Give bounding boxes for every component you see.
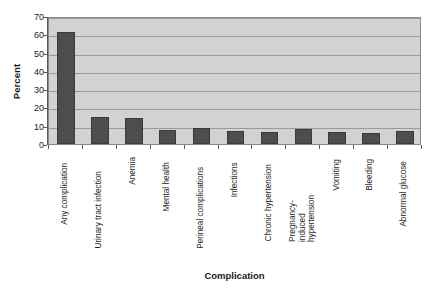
- y-axis-tick: [43, 127, 47, 128]
- bar-chart: Percent 706050403020100 Any complication…: [0, 0, 437, 300]
- x-axis-category-label: Infections: [218, 150, 252, 262]
- x-axis-tick: [387, 145, 388, 149]
- y-axis-tick-label: 40: [25, 67, 44, 76]
- x-axis-category-label-text: Bleeding: [365, 159, 375, 191]
- bar: [295, 129, 313, 144]
- x-axis-category-label-text: Pregnancy-induced hypertension: [288, 195, 317, 242]
- x-axis-category-label: Pregnancy-induced hypertension: [285, 150, 319, 262]
- x-axis-category-label-text: Urinary tract infection: [94, 171, 104, 248]
- y-axis-tick: [43, 108, 47, 109]
- x-axis-tick: [150, 145, 151, 149]
- bar: [57, 32, 75, 144]
- x-axis-category-label-text: Abnormal glucose: [399, 161, 409, 227]
- y-axis-tick: [43, 35, 47, 36]
- x-axis-category-label: Chronic hypertension: [251, 150, 285, 262]
- y-axis-tick-label: 10: [25, 122, 44, 131]
- x-axis-category-label-text: Any complication: [60, 163, 70, 225]
- x-axis-category-label: Bleeding: [353, 150, 387, 262]
- bar: [125, 118, 143, 144]
- x-axis-category-label: Urinary tract infection: [82, 150, 116, 262]
- x-axis-category-label-text: Infections: [230, 162, 240, 197]
- x-axis-tick: [421, 145, 422, 149]
- y-axis-tick-labels: 706050403020100: [25, 17, 44, 145]
- x-axis-tick: [285, 145, 286, 149]
- x-axis-tick: [353, 145, 354, 149]
- x-axis-tick: [251, 145, 252, 149]
- x-axis-tick: [48, 145, 49, 149]
- y-axis-tick-label: 70: [25, 13, 44, 22]
- bar: [362, 133, 380, 144]
- x-axis-tick: [82, 145, 83, 149]
- x-axis-title: Complication: [48, 270, 421, 281]
- x-axis-category-label-text: Vomiting: [331, 160, 341, 191]
- y-axis-title: Percent: [10, 17, 24, 145]
- y-axis-tick-label: 50: [25, 49, 44, 58]
- y-axis-tick: [43, 145, 47, 146]
- bar: [227, 131, 245, 144]
- bars-layer: [49, 18, 420, 144]
- bar: [159, 130, 177, 144]
- x-axis-category-label: Any complication: [48, 150, 82, 262]
- y-axis-tick-label: 60: [25, 31, 44, 40]
- x-axis-category-label-text: Perineal complications: [196, 166, 206, 248]
- bar: [261, 132, 279, 144]
- y-axis-tick: [43, 90, 47, 91]
- x-axis-category-label-text: Mental health: [162, 162, 172, 211]
- x-axis-tick: [319, 145, 320, 149]
- y-axis-tick-label: 20: [25, 104, 44, 113]
- x-axis-tick: [184, 145, 185, 149]
- bar: [193, 128, 211, 144]
- plot-area: [48, 17, 421, 145]
- x-axis-category-label: Anemia: [116, 150, 150, 262]
- y-axis-tick: [43, 17, 47, 18]
- x-axis-category-label: Perineal complications: [184, 150, 218, 262]
- x-axis-category-label-text: Chronic hypertension: [264, 164, 274, 241]
- y-axis-tick: [43, 54, 47, 55]
- bar: [396, 131, 414, 144]
- x-axis-category-label-text: Anemia: [128, 157, 138, 185]
- x-axis-category-label: Vomiting: [319, 150, 353, 262]
- x-axis-category-label: Mental health: [150, 150, 184, 262]
- x-axis-tick: [218, 145, 219, 149]
- y-axis-tick: [43, 72, 47, 73]
- bar: [328, 132, 346, 144]
- y-axis-title-text: Percent: [12, 63, 23, 99]
- bar: [91, 117, 109, 144]
- x-axis-tick: [116, 145, 117, 149]
- y-axis-tick-label: 0: [25, 141, 44, 150]
- x-axis-category-label: Abnormal glucose: [387, 150, 421, 262]
- y-axis-tick-label: 30: [25, 86, 44, 95]
- x-axis-category-labels: Any complicationUrinary tract infectionA…: [48, 150, 421, 262]
